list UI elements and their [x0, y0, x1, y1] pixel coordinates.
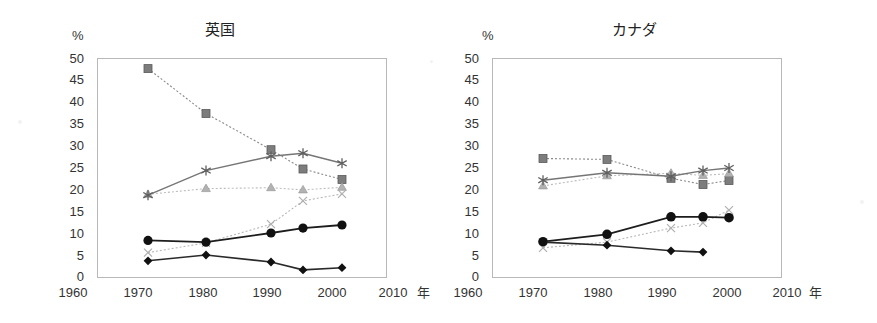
- x-tick-canada-1980: 1980: [573, 286, 623, 299]
- chart-title-canada: カナダ: [612, 18, 657, 39]
- series-cross-uk: [144, 190, 346, 257]
- y-tick-uk-20: 20: [58, 183, 84, 196]
- y-tick-canada-15: 15: [453, 205, 479, 218]
- series-triangle-uk: [144, 183, 347, 198]
- figure-root: % 英国 50 45 40 35 30 25 20 15 10 5 0: [0, 0, 877, 323]
- x-tick-canada-2010: 2010: [762, 286, 812, 299]
- x-tick-canada-1960: 1960: [443, 286, 493, 299]
- x-axis-unit-label-canada: 年: [809, 286, 822, 299]
- y-tick-canada-40: 40: [453, 95, 479, 108]
- series-diamond-uk: [144, 251, 347, 275]
- y-axis-unit-label-canada: %: [482, 28, 494, 43]
- y-tick-uk-45: 45: [58, 73, 84, 86]
- y-tick-uk-35: 35: [58, 117, 84, 130]
- series-circle-canada: [538, 212, 734, 247]
- y-tick-canada-30: 30: [453, 139, 479, 152]
- y-tick-uk-0: 0: [58, 270, 84, 283]
- x-tick-uk-2010: 2010: [368, 286, 418, 299]
- chart-panel-canada: % カナダ 50 45 40 35 30 25 20 15 10 5 0: [440, 0, 877, 323]
- plot-area-canada: [492, 58, 782, 278]
- x-axis-unit-label-uk: 年: [417, 286, 430, 299]
- y-tick-canada-20: 20: [453, 183, 479, 196]
- y-tick-canada-35: 35: [453, 117, 479, 130]
- y-tick-canada-0: 0: [453, 270, 479, 283]
- y-tick-uk-25: 25: [58, 161, 84, 174]
- y-axis-unit-label-uk: %: [72, 28, 84, 43]
- y-tick-canada-45: 45: [453, 73, 479, 86]
- x-tick-uk-1990: 1990: [242, 286, 292, 299]
- x-tick-canada-1990: 1990: [637, 286, 687, 299]
- series-diamond-canada: [539, 238, 708, 257]
- series-circle-uk: [143, 220, 346, 246]
- x-tick-uk-1970: 1970: [113, 286, 163, 299]
- x-tick-uk-1960: 1960: [48, 286, 98, 299]
- x-tick-uk-2000: 2000: [307, 286, 357, 299]
- y-tick-uk-50: 50: [58, 52, 84, 65]
- chart-title-uk: 英国: [205, 18, 235, 39]
- plot-svg-canada: [493, 59, 781, 277]
- y-tick-canada-25: 25: [453, 161, 479, 174]
- x-tick-canada-1970: 1970: [508, 286, 558, 299]
- y-tick-uk-15: 15: [58, 205, 84, 218]
- y-tick-uk-30: 30: [58, 139, 84, 152]
- y-tick-canada-50: 50: [453, 52, 479, 65]
- y-tick-canada-10: 10: [453, 227, 479, 240]
- x-tick-canada-2000: 2000: [702, 286, 752, 299]
- y-tick-uk-10: 10: [58, 227, 84, 240]
- plot-area-uk: [97, 58, 387, 278]
- series-square-uk: [144, 65, 346, 184]
- plot-svg-uk: [98, 59, 386, 277]
- x-tick-uk-1980: 1980: [178, 286, 228, 299]
- y-tick-uk-40: 40: [58, 95, 84, 108]
- chart-panel-uk: % 英国 50 45 40 35 30 25 20 15 10 5 0: [0, 0, 440, 323]
- y-tick-canada-5: 5: [453, 249, 479, 262]
- series-star-uk: [143, 148, 346, 200]
- y-tick-uk-5: 5: [58, 249, 84, 262]
